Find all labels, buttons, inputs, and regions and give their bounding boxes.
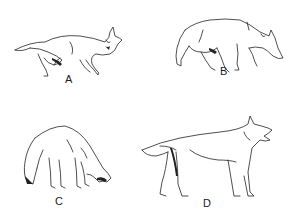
panel-label-d: D [203,198,211,209]
panel-c: C [15,118,115,198]
panel-a: A [10,20,125,90]
panel-label-c: C [55,196,63,207]
panel-label-a: A [65,74,72,85]
canid-crouched-drawing [15,118,115,198]
canid-snarling-drawing [140,110,290,210]
panel-b: B [165,8,285,78]
panel-d: D [140,110,290,210]
panel-label-b: B [220,66,227,77]
